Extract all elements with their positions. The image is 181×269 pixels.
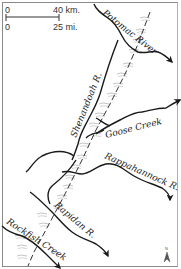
rockfish-creek-label: Rockfish Creek [4, 216, 68, 263]
shenandoah-river-label: Shenandoah R. [69, 71, 104, 139]
goose-creek-label: Goose Creek [104, 116, 163, 140]
map-canvas: Potomac River Shenandoah R. Goose Creek … [0, 0, 181, 269]
shenandoah-river-line [72, 40, 118, 160]
goose-creek-tributary-north [96, 118, 110, 126]
rappahannock-river-label: Rappahannock R. [102, 150, 181, 192]
north-arrow-icon: N [164, 246, 170, 262]
shenandoah-west-fork [26, 152, 74, 173]
scale-bar [6, 14, 59, 21]
north-arrow-label: N [165, 246, 168, 251]
